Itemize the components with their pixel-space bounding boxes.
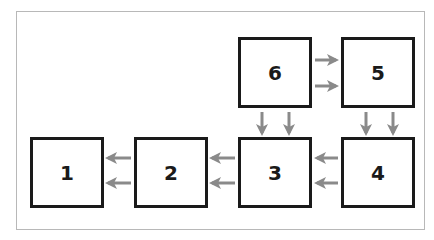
block-3-label: 3 [268,161,282,185]
block-3: 3 [238,137,312,208]
block-4: 4 [341,137,415,208]
block-5-label: 5 [371,61,385,85]
block-1-label: 1 [60,161,74,185]
block-5: 5 [341,37,415,108]
block-6-label: 6 [268,61,282,85]
block-2: 2 [134,137,208,208]
block-6: 6 [238,37,312,108]
block-1: 1 [30,137,104,208]
block-4-label: 4 [371,161,385,185]
block-2-label: 2 [164,161,178,185]
